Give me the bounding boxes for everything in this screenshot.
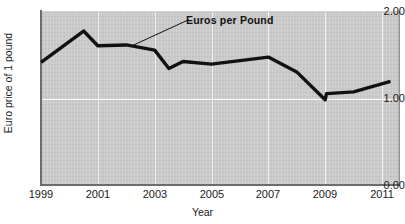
x-tick-label-2001: 2001: [78, 189, 118, 200]
x-tick-label-2005: 2005: [192, 189, 232, 200]
x-tick-label-2007: 2007: [248, 189, 288, 200]
x-tick-label-1999: 1999: [21, 189, 61, 200]
x-tick-label-2003: 2003: [135, 189, 175, 200]
y-tick-label-1: 1.00: [369, 93, 405, 104]
plot-area: [41, 11, 399, 185]
x-axis-title: Year: [0, 206, 405, 218]
horizontal-gridline-1: [41, 99, 398, 100]
x-tick-label-2011: 2011: [362, 189, 402, 200]
y-axis-spine: [40, 10, 42, 186]
series-annotation-label: Euros per Pound: [186, 14, 274, 26]
chart-container: 2.00 1.00 0.00 1999 2001 2003 2005 2007 …: [0, 0, 405, 224]
x-tick-label-2009: 2009: [305, 189, 345, 200]
y-axis-title: Euro price of 1 pound: [2, 13, 14, 153]
x-axis-spine: [40, 184, 400, 186]
y-tick-label-2: 2.00: [369, 6, 405, 17]
